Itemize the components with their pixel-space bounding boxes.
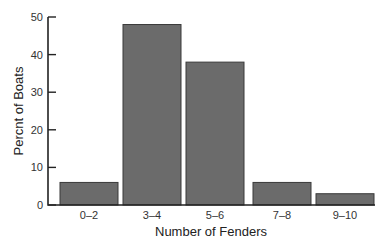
y-tick-label: 50 — [31, 11, 43, 23]
x-tick-label: 0–2 — [80, 209, 98, 221]
x-tick-label: 7–8 — [273, 209, 291, 221]
bars — [60, 25, 374, 205]
x-axis-ticks: 0–23–45–67–89–10 — [80, 209, 357, 221]
y-tick-label: 40 — [31, 49, 43, 61]
bar-3 — [253, 182, 311, 205]
x-axis-title: Number of Fenders — [155, 224, 267, 239]
y-tick-label: 10 — [31, 161, 43, 173]
y-axis-title: Percnt of Boats — [11, 66, 26, 155]
x-tick-label: 3–4 — [143, 209, 161, 221]
bar-chart: 01020304050 0–23–45–67–89–10 Number of F… — [0, 0, 388, 248]
y-tick-label: 30 — [31, 86, 43, 98]
x-tick-label: 9–10 — [333, 209, 357, 221]
bar-4 — [316, 194, 374, 205]
y-axis-ticks: 01020304050 — [31, 11, 56, 211]
y-tick-label: 0 — [37, 199, 43, 211]
y-tick-label: 20 — [31, 124, 43, 136]
bar-2 — [186, 62, 244, 205]
bar-0 — [60, 182, 118, 205]
bar-1 — [123, 25, 181, 205]
x-tick-label: 5–6 — [206, 209, 224, 221]
